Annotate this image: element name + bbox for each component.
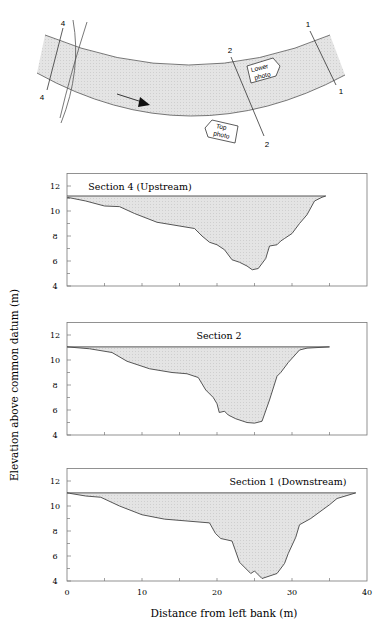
y-tick-label: 8 [52, 232, 57, 241]
y-tick-label: 10 [50, 207, 60, 216]
x-tick-label: 40 [362, 588, 372, 597]
y-tick-label: 12 [50, 477, 60, 486]
y-tick-label: 6 [52, 406, 57, 415]
section-2-label-top: 2 [228, 46, 233, 55]
y-tick-label: 6 [52, 257, 57, 266]
y-tick-label: 4 [52, 577, 57, 586]
top-photo-callout: Top photo [205, 120, 238, 143]
section-4-panel: 4681012Section 4 (Upstream) [50, 174, 367, 292]
y-tick-label: 8 [52, 381, 57, 390]
x-tick-label: 0 [64, 588, 69, 597]
section-1-panel: 4681012Section 1 (Downstream) [50, 469, 367, 587]
river-plan-map: 4 4 2 2 1 1 Lower photo Top photo [37, 19, 345, 149]
y-tick-label: 10 [50, 502, 60, 511]
y-tick-label: 8 [52, 527, 57, 536]
y-tick-label: 4 [52, 282, 57, 291]
x-tick-label: 30 [287, 588, 297, 597]
section-1-label-top: 1 [306, 20, 311, 29]
y-tick-label: 10 [50, 356, 60, 365]
y-tick-label: 12 [50, 182, 60, 191]
x-tick-label: 20 [212, 588, 222, 597]
water-area [67, 493, 356, 579]
section-4-label-bottom: 4 [40, 93, 45, 102]
section-2-label-bottom: 2 [265, 140, 270, 149]
section-2-panel: 4681012Section 2 [50, 323, 367, 441]
water-area [67, 196, 326, 270]
x-tick-labels: 010203040 [64, 588, 372, 597]
y-tick-label: 6 [52, 552, 57, 561]
x-axis-label: Distance from left bank (m) [151, 607, 298, 619]
y-tick-label: 12 [50, 331, 60, 340]
x-tick-label: 10 [137, 588, 147, 597]
figure: 4 4 2 2 1 1 Lower photo Top photo 468101… [0, 0, 383, 635]
section-1-label-bottom: 1 [339, 87, 344, 96]
section-4-label-top: 4 [61, 19, 66, 28]
section-title: Section 4 (Upstream) [88, 181, 191, 192]
water-area [67, 347, 330, 423]
y-axis-label: Elevation above common datum (m) [8, 289, 20, 481]
section-title: Section 1 (Downstream) [230, 476, 347, 487]
section-title: Section 2 [196, 330, 241, 341]
y-tick-label: 4 [52, 431, 57, 440]
